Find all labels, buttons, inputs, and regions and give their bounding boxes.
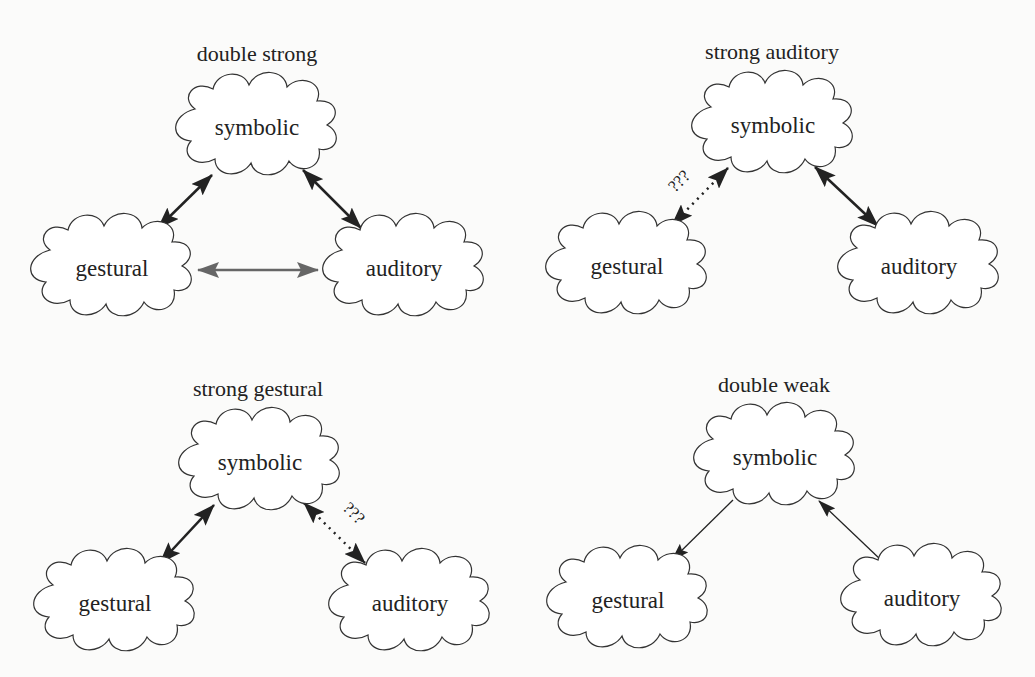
node-label: gestural	[76, 256, 149, 281]
edge-symbolic-to-gestural	[672, 500, 733, 560]
node-gestural: gestural	[31, 213, 192, 315]
node-label: symbolic	[215, 115, 299, 140]
panel-double-strong: double strong symbolic gestural auditory	[31, 41, 484, 316]
node-symbolic: symbolic	[179, 407, 340, 509]
node-auditory: auditory	[841, 543, 1002, 645]
panel-strong-gestural: strong gestural ??? symbolic gestural au…	[34, 376, 490, 651]
node-label: auditory	[366, 256, 443, 281]
panel-title: double strong	[197, 41, 317, 66]
node-label: auditory	[881, 254, 958, 279]
node-symbolic: symbolic	[694, 402, 855, 504]
node-label: auditory	[372, 591, 449, 616]
panel-title: double weak	[718, 372, 830, 397]
node-symbolic: symbolic	[692, 70, 853, 172]
panel-title: strong gestural	[193, 376, 323, 401]
node-label: gestural	[591, 254, 664, 279]
edge-symbolic-gestural	[158, 175, 212, 228]
panel-double-weak: double weak symbolic gestural auditory	[547, 372, 1002, 648]
node-gestural: gestural	[547, 545, 708, 647]
panel-title: strong auditory	[705, 39, 839, 64]
node-label: symbolic	[733, 445, 817, 470]
node-label: symbolic	[731, 113, 815, 138]
node-gestural: gestural	[546, 211, 707, 313]
node-label: gestural	[79, 591, 152, 616]
edge-symbolic-gestural	[160, 505, 214, 563]
edge-symbolic-auditory	[303, 170, 361, 228]
node-auditory: auditory	[329, 548, 490, 650]
uncertain-label: ???	[339, 498, 368, 527]
node-label: gestural	[592, 588, 665, 613]
node-gestural: gestural	[34, 548, 195, 650]
node-label: auditory	[884, 586, 961, 611]
node-auditory: auditory	[323, 213, 484, 315]
node-symbolic: symbolic	[176, 72, 337, 174]
node-auditory: auditory	[838, 211, 999, 313]
panel-strong-auditory: strong auditory ??? symbolic gestural au…	[546, 39, 999, 314]
diagram-canvas: double strong symbolic gestural auditory…	[0, 0, 1035, 677]
node-label: symbolic	[218, 450, 302, 475]
edge-symbolic-auditory	[815, 167, 878, 226]
edge-auditory-to-symbolic	[819, 501, 881, 560]
uncertain-label: ???	[664, 166, 693, 195]
